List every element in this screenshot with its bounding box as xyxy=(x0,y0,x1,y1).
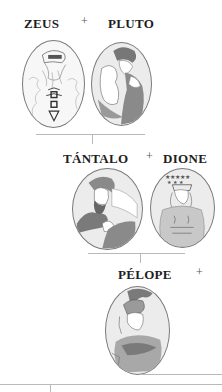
zeus-portrait-icon xyxy=(23,41,84,127)
bottom-descent-line xyxy=(50,384,51,392)
name-zeus: ZEUS xyxy=(24,17,59,30)
name-pelope: PÉLOPE xyxy=(118,268,172,281)
name-dione: DIONE xyxy=(163,152,207,165)
descent-line-gen1 xyxy=(92,134,93,144)
tantalo-portrait xyxy=(72,168,143,250)
dione-portrait: ★★★★★ ★ ★ ★ xyxy=(150,168,215,248)
tantalo-portrait-icon xyxy=(73,169,142,249)
plus-sign-gen3: + xyxy=(196,266,203,278)
dione-portrait-icon: ★★★★★ ★ ★ ★ xyxy=(151,169,214,247)
name-pluto: PLUTO xyxy=(108,17,154,30)
plus-sign-gen2: + xyxy=(146,150,153,162)
pluto-portrait xyxy=(91,42,152,126)
zeus-portrait xyxy=(22,40,85,128)
plus-sign-gen1: + xyxy=(81,15,88,27)
marriage-line-gen3 xyxy=(142,374,222,375)
pluto-portrait-icon xyxy=(92,43,151,125)
descent-line-gen2 xyxy=(140,253,141,263)
marriage-line-gen2 xyxy=(88,253,185,254)
name-tantalo: TÁNTALO xyxy=(63,152,128,165)
marriage-line-gen1 xyxy=(36,134,145,135)
bottom-border-line xyxy=(0,384,222,385)
pelope-portrait-icon xyxy=(106,287,169,374)
pelope-portrait xyxy=(105,286,170,375)
svg-text:★ ★ ★: ★ ★ ★ xyxy=(167,180,183,185)
